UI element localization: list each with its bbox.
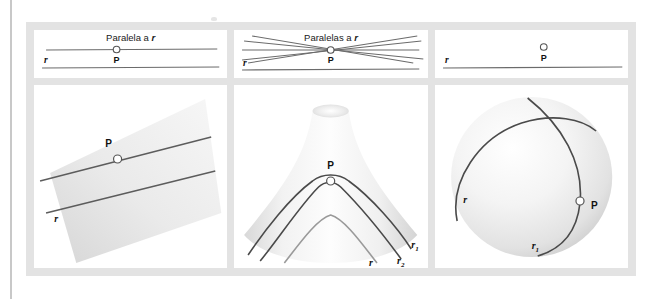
parallel-line-through-p bbox=[46, 49, 217, 50]
point-p-marker bbox=[114, 155, 122, 163]
panel-hyperbolic-schematic: P r Paralelas a r bbox=[234, 30, 427, 78]
point-p-marker bbox=[328, 47, 335, 54]
hyperboloid-throat bbox=[313, 105, 349, 118]
point-p-label: P bbox=[114, 55, 120, 65]
euclidean-schematic-drawing: P r bbox=[34, 30, 227, 78]
point-p-marker bbox=[327, 177, 335, 185]
panel-spherical-schematic: P r bbox=[435, 30, 628, 78]
curve-r-label: r bbox=[369, 257, 373, 268]
point-p-marker bbox=[540, 44, 547, 51]
point-p-marker bbox=[113, 46, 120, 53]
hyperbolic-schematic-drawing: P r bbox=[234, 30, 427, 78]
point-p-label: P bbox=[328, 55, 334, 65]
page-left-rule bbox=[10, 0, 12, 299]
point-p-label: P bbox=[540, 53, 546, 63]
point-p-marker bbox=[576, 197, 584, 205]
point-p-label: P bbox=[105, 138, 112, 149]
curve-r1-label: r1 bbox=[412, 239, 419, 253]
euclidean-plane-drawing: P r bbox=[34, 85, 227, 268]
line-r-label: r bbox=[44, 55, 48, 65]
hyperboloid-surface bbox=[244, 111, 417, 263]
panel-euclidean-schematic: P r Paralela a r bbox=[34, 30, 227, 78]
line-r-label: r bbox=[243, 58, 247, 68]
panel-euclidean-surface: P r bbox=[34, 85, 227, 268]
line-r bbox=[443, 67, 622, 68]
point-p-label: P bbox=[591, 200, 598, 211]
great-circle-r-label: r bbox=[463, 194, 467, 205]
scan-artifact-speck bbox=[211, 17, 217, 21]
spherical-schematic-drawing: P r bbox=[435, 30, 628, 78]
line-r-label: r bbox=[54, 213, 58, 224]
point-p-label: P bbox=[328, 160, 335, 171]
plane-surface bbox=[50, 99, 221, 263]
line-r-label: r bbox=[445, 55, 449, 65]
panel-spherical-surface: P r r1 bbox=[435, 85, 628, 268]
hyperboloid-drawing: P r1 r2 r bbox=[234, 85, 427, 268]
figure-grid: P r Paralela a r P r bbox=[34, 30, 628, 268]
curve-r2-label: r2 bbox=[397, 255, 405, 268]
panel-hyperbolic-surface: P r1 r2 r bbox=[234, 85, 427, 268]
line-r bbox=[242, 69, 419, 70]
figure-frame: P r Paralela a r P r bbox=[26, 22, 636, 276]
line-r bbox=[42, 67, 219, 68]
sphere-drawing: P r r1 bbox=[435, 85, 628, 268]
